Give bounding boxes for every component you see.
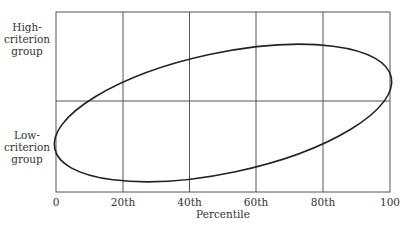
low-label-line2: criterion	[0, 141, 54, 153]
high-label-line1: High-	[0, 21, 54, 33]
x-tick-60th: 60th	[244, 196, 268, 208]
low-label-line3: group	[0, 153, 54, 165]
low-criterion-label: Low- criterion group	[0, 129, 54, 165]
correlation-ellipse	[42, 19, 403, 208]
x-tick-20th: 20th	[111, 196, 135, 208]
high-criterion-label: High- criterion group	[0, 21, 54, 57]
high-label-line2: criterion	[0, 33, 54, 45]
x-tick-40th: 40th	[177, 196, 201, 208]
x-tick-80th: 80th	[311, 196, 335, 208]
low-label-line1: Low-	[0, 129, 54, 141]
x-tick-100: 100	[380, 196, 400, 208]
chart-canvas	[0, 0, 410, 229]
high-label-line3: group	[0, 45, 54, 57]
x-axis-label: Percentile	[196, 208, 250, 220]
x-tick-0: 0	[53, 196, 60, 208]
plot-frame	[56, 12, 390, 192]
